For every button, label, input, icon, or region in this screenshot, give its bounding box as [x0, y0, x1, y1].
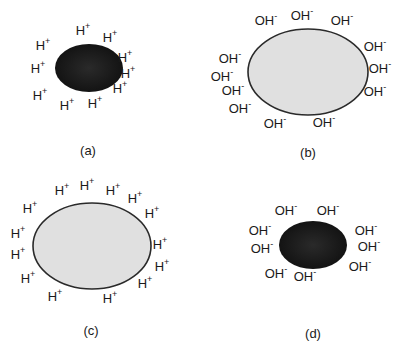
hydrogen-ion-label: H+	[128, 189, 143, 206]
hydrogen-ion-label: H+	[33, 86, 48, 103]
hydroxide-ion-label: OH-	[313, 113, 336, 130]
hydrogen-ion-label: H+	[113, 79, 128, 96]
panel-d: OH-OH-OH-OH-OH-OH-OH-OH-OH- (d)	[249, 201, 381, 341]
hydrogen-ion-label: H+	[153, 235, 168, 252]
hydrogen-ion-label: H+	[145, 204, 160, 221]
hydrogen-ion-label: H+	[88, 94, 103, 111]
hydroxide-ion-label: OH-	[294, 267, 317, 284]
hydroxide-ion-label: OH-	[349, 257, 372, 274]
hydrogen-ion-label: H+	[36, 36, 51, 53]
panel-label: (a)	[80, 143, 96, 158]
hydroxide-ion-label: OH-	[219, 49, 242, 66]
hydrogen-ion-label: H+	[55, 181, 70, 198]
hydroxide-ion-label: OH-	[211, 67, 234, 84]
hydroxide-ion-label: OH-	[331, 11, 354, 28]
panel-label: (c)	[83, 323, 98, 338]
hydrogen-ion-label: H+	[11, 224, 26, 241]
hydrogen-ion-label: H+	[23, 199, 38, 216]
hydroxide-ion-label: OH-	[255, 11, 278, 28]
hydroxide-ion-label: OH-	[364, 82, 387, 99]
hydroxide-ion-label: OH-	[264, 114, 287, 131]
panel-label: (d)	[305, 326, 321, 341]
hydrogen-ion-label: H+	[155, 257, 170, 274]
hydrogen-ion-label: H+	[103, 289, 118, 306]
hydroxide-ion-label: OH-	[249, 221, 272, 238]
dark-particle	[279, 221, 347, 269]
hydrogen-ion-label: H+	[138, 274, 153, 291]
hydroxide-ion-label: OH-	[222, 81, 245, 98]
light-particle	[248, 29, 368, 115]
panel-label: (b)	[300, 145, 316, 160]
panel-a: H+H+H+H+H+H+H+H+H+H+ (a)	[31, 21, 136, 158]
hydrogen-ion-label: H+	[48, 287, 63, 304]
hydroxide-ion-label: OH-	[229, 99, 252, 116]
hydroxide-ion-label: OH-	[355, 221, 378, 238]
hydrogen-ion-label: H+	[80, 176, 95, 193]
hydroxide-ion-label: OH-	[358, 237, 381, 254]
particle-charge-diagram: H+H+H+H+H+H+H+H+H+H+ (a) OH-OH-OH-OH-OH-…	[0, 0, 400, 353]
hydroxide-ion-label: OH-	[275, 201, 298, 218]
hydrogen-ion-label: H+	[106, 181, 121, 198]
panel-b: OH-OH-OH-OH-OH-OH-OH-OH-OH-OH-OH-OH- (b)	[211, 6, 392, 160]
hydrogen-ion-label: H+	[118, 48, 133, 65]
hydrogen-ion-label: H+	[11, 245, 26, 262]
hydroxide-ion-label: OH-	[364, 37, 387, 54]
hydroxide-ion-label: OH-	[291, 6, 314, 23]
hydrogen-ion-label: H+	[31, 59, 46, 76]
panel-c: H+H+H+H+H+H+H+H+H+H+H+H+H+H+ (c)	[11, 176, 170, 338]
hydroxide-ion-label: OH-	[369, 59, 392, 76]
hydroxide-ion-label: OH-	[251, 239, 274, 256]
hydrogen-ion-label: H+	[76, 21, 91, 38]
hydroxide-ion-label: OH-	[317, 201, 340, 218]
light-particle	[33, 203, 151, 289]
hydrogen-ion-label: H+	[103, 28, 118, 45]
hydrogen-ion-label: H+	[21, 269, 36, 286]
hydrogen-ion-label: H+	[60, 96, 75, 113]
hydroxide-ion-label: OH-	[265, 264, 288, 281]
